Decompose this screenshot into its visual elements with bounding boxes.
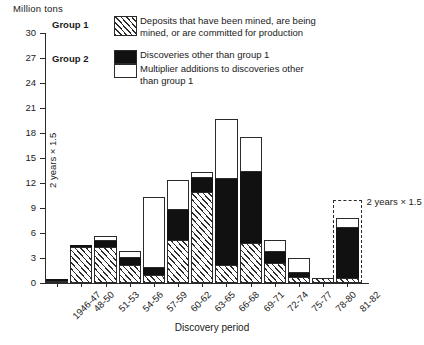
bar-segment-white: [143, 197, 165, 268]
y-axis-tick-label: 30: [25, 28, 36, 38]
x-axis-tick: [106, 283, 107, 287]
bar-segment-black: [143, 268, 165, 275]
bar-segment-hatch: [215, 265, 237, 283]
x-axis-tick: [81, 283, 82, 287]
x-axis-label: 54-56: [140, 289, 165, 314]
y-axis-tick-label: 27: [25, 53, 36, 63]
x-axis-tick: [251, 283, 252, 287]
projection-label: 2 years × 1.5: [367, 196, 422, 207]
x-axis-label: 75-77: [309, 289, 334, 314]
y-axis-tick: [40, 283, 45, 284]
y-axis-tick: [40, 183, 45, 184]
x-axis-title: Discovery period: [0, 322, 424, 333]
bar-segment-white: [119, 251, 141, 259]
bar-segment-hatch: [94, 247, 116, 283]
x-axis-line: [45, 283, 369, 284]
y-axis-tick: [40, 33, 45, 34]
legend-entry-text: Discoveries other than group 1: [140, 49, 269, 61]
y-axis-tick-label: 0: [31, 278, 36, 288]
x-axis-label: 72-74: [285, 289, 310, 314]
bar-segment-white: [240, 137, 262, 172]
bar-segment-white: [264, 240, 286, 253]
bar-segment-white: [191, 172, 213, 178]
bar-segment-black: [119, 258, 141, 265]
bar-segment-black: [191, 178, 213, 192]
legend-swatch-white: [114, 64, 137, 78]
legend-entry-text: Deposits that have been mined, are being…: [140, 15, 316, 38]
x-axis-label: 69-71: [261, 289, 286, 314]
bar-segment-hatch: [191, 192, 213, 283]
legend-entry-text: Multiplier additions to discoveries othe…: [140, 63, 304, 86]
x-axis-tick: [57, 283, 58, 287]
x-axis-label: 57-59: [164, 289, 189, 314]
bar-segment-black: [288, 273, 310, 277]
y-axis-tick: [40, 133, 45, 134]
bar-segment-hatch: [264, 263, 286, 283]
y-axis-tick-label: 6: [31, 228, 36, 238]
bar-segment-hatch: [143, 275, 165, 283]
y-axis-tick-label: 9: [31, 203, 36, 213]
bar-column[interactable]: [312, 33, 334, 283]
x-axis-label: 81-82: [358, 289, 383, 314]
x-axis-tick: [178, 283, 179, 287]
chart-container: Million tons 036912151821242730 2 years …: [0, 0, 424, 345]
bar-column[interactable]: [70, 33, 92, 283]
bar-segment-black: [167, 210, 189, 240]
legend-swatch-black: [114, 50, 137, 64]
x-axis-tick: [275, 283, 276, 287]
y-axis-tick: [40, 83, 45, 84]
bar-segment-hatch: [119, 265, 141, 283]
y-axis-tick: [40, 58, 45, 59]
bar-segment-white: [167, 180, 189, 210]
x-axis-tick: [202, 283, 203, 287]
bar-segment-black: [264, 252, 286, 263]
legend-swatch-hatch: [114, 16, 137, 36]
x-axis-tick: [299, 283, 300, 287]
bar-segment-white: [288, 258, 310, 273]
y-axis-tick-label: 24: [25, 78, 36, 88]
x-axis-tick: [130, 283, 131, 287]
bar-segment-black: [240, 172, 262, 243]
y-axis-tick: [40, 208, 45, 209]
bar-segment-black: [94, 241, 116, 247]
y-axis-tick-label: 18: [25, 128, 36, 138]
x-axis-label: 78-80: [333, 289, 358, 314]
bar-segment-white: [94, 236, 116, 241]
bar-segment-hatch: [70, 247, 92, 283]
y-axis-tick-label: 3: [31, 253, 36, 263]
projection-box: [333, 200, 361, 283]
x-axis-label: 60-62: [188, 289, 213, 314]
bar-segment-black: [46, 279, 68, 282]
y-axis-title: Million tons: [13, 3, 63, 14]
y-axis-tick: [40, 158, 45, 159]
y-axis-tick-label: 12: [25, 178, 36, 188]
x-axis-label: 66-68: [237, 289, 262, 314]
x-axis-tick: [323, 283, 324, 287]
inner-annotation-note: 2 years × 1.5: [47, 133, 58, 188]
y-axis-tick-label: 21: [25, 103, 36, 113]
legend-group-label: Group 1: [52, 19, 88, 30]
x-axis-tick: [226, 283, 227, 287]
x-axis-tick: [347, 283, 348, 287]
bar-segment-black: [70, 245, 92, 248]
x-axis-label: 51-53: [116, 289, 141, 314]
y-axis-tick: [40, 258, 45, 259]
x-axis-tick: [154, 283, 155, 287]
bar-segment-hatch: [240, 243, 262, 283]
x-axis-label: 63-65: [212, 289, 237, 314]
bar-segment-hatch: [167, 240, 189, 283]
bar-segment-white: [215, 119, 237, 179]
bar-segment-black: [215, 179, 237, 265]
legend-group-label: Group 2: [52, 53, 88, 64]
y-axis-tick: [40, 108, 45, 109]
y-axis-tick-label: 15: [25, 153, 36, 163]
y-axis-tick: [40, 233, 45, 234]
